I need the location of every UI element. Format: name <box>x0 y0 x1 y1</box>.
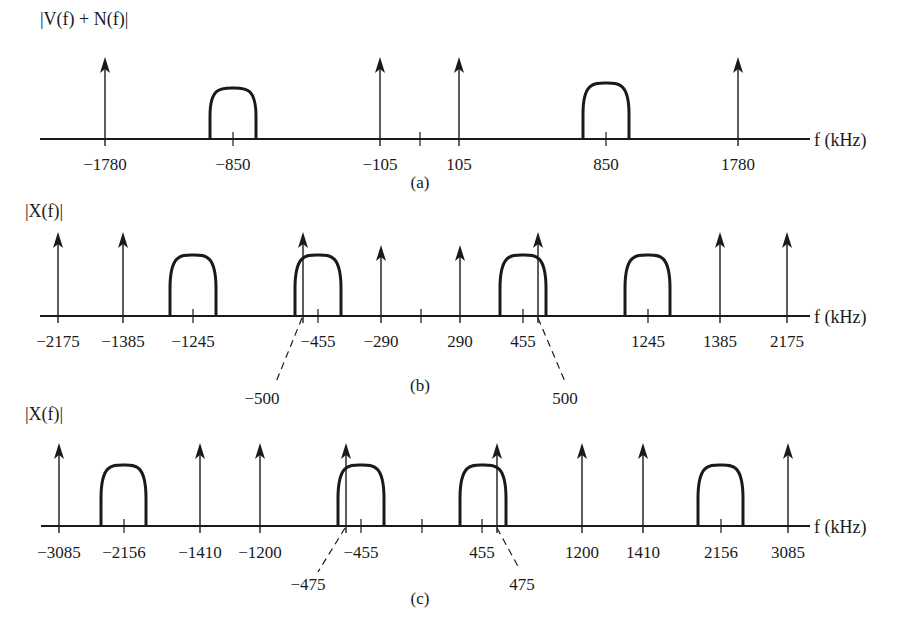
panel-caption: (c) <box>411 589 430 608</box>
spectrum-bump: 455 <box>460 465 506 562</box>
callout: 500 <box>538 318 578 408</box>
impulse-arrow <box>492 443 502 533</box>
tick-label: 455 <box>469 543 495 562</box>
tick-label: −1245 <box>171 332 215 351</box>
spectrum-bump: 850 <box>583 83 629 174</box>
tick-label: −1200 <box>238 543 282 562</box>
bump-curve <box>170 255 216 316</box>
spectrum-bump: −455 <box>295 255 341 351</box>
impulse-arrow <box>341 443 351 533</box>
impulse-arrow: 1410 <box>626 443 660 562</box>
tick-label: −455 <box>300 332 335 351</box>
impulse-arrow: −1385 <box>101 232 145 351</box>
tick-label: 1780 <box>721 155 755 174</box>
panel-a: |V(f) + N(f)|f (kHz)−1780−1051051780−850… <box>40 9 866 192</box>
spectrum-bump: −2156 <box>101 465 146 562</box>
tick-label: −1780 <box>83 155 127 174</box>
spectrum-bump: −1245 <box>170 255 216 351</box>
impulse-arrow: 1780 <box>721 57 755 174</box>
tick-label: 1385 <box>703 332 737 351</box>
impulse-arrow: −3085 <box>37 443 81 562</box>
impulse-arrow: −290 <box>363 245 398 351</box>
tick-label: −2156 <box>102 543 146 562</box>
impulse-arrow: 3085 <box>771 443 805 562</box>
bump-curve <box>460 465 506 526</box>
impulse-arrow: 1200 <box>565 443 599 562</box>
impulse-arrow <box>533 232 543 323</box>
tick-label: −2175 <box>36 332 80 351</box>
impulse-arrow: −105 <box>362 57 397 174</box>
spectrum-bump: −455 <box>338 465 384 562</box>
tick-label: −1410 <box>178 543 222 562</box>
tick-label: −3085 <box>37 543 81 562</box>
spectrum-bump: 1245 <box>625 255 670 351</box>
x-axis-label: f (kHz) <box>814 517 866 538</box>
callout: 475 <box>497 528 535 594</box>
bump-curve <box>500 255 546 316</box>
tick-label: 2156 <box>704 543 738 562</box>
x-axis-label: f (kHz) <box>814 130 866 151</box>
impulse-arrow: −2175 <box>36 232 80 351</box>
tick-label: −105 <box>362 155 397 174</box>
y-axis-label: |V(f) + N(f)| <box>40 9 128 30</box>
tick-label: −290 <box>363 332 398 351</box>
spectrum-bump: −850 <box>210 88 256 174</box>
spectrum-diagram: |V(f) + N(f)|f (kHz)−1780−1051051780−850… <box>0 0 902 624</box>
tick-label: −455 <box>343 543 378 562</box>
tick-label: 1200 <box>565 543 599 562</box>
callout-label: −475 <box>290 575 325 594</box>
panel-b: |X(f)|f (kHz)−2175−1385−29029013852175−1… <box>25 201 866 408</box>
bump-curve <box>295 255 341 316</box>
tick-label: 455 <box>510 332 536 351</box>
spectrum-bump: 455 <box>500 255 546 351</box>
tick-label: 105 <box>446 155 472 174</box>
callout-label: 500 <box>552 389 578 408</box>
panel-caption: (b) <box>410 376 430 395</box>
bump-curve <box>210 88 256 139</box>
spectrum-bump: 2156 <box>698 465 743 562</box>
tick-label: 2175 <box>770 332 804 351</box>
y-axis-label: |X(f)| <box>25 404 63 425</box>
impulse-arrow: 290 <box>447 245 473 351</box>
impulse-arrow: 2175 <box>770 232 804 351</box>
bump-curve <box>625 255 670 316</box>
tick-label: −1385 <box>101 332 145 351</box>
impulse-arrow <box>298 232 308 323</box>
bump-curve <box>698 465 743 526</box>
tick-label: 1410 <box>626 543 660 562</box>
tick-label: 850 <box>593 155 619 174</box>
tick-label: 1245 <box>631 332 665 351</box>
bump-curve <box>101 465 146 526</box>
impulse-arrow: −1410 <box>178 443 222 562</box>
x-axis-label: f (kHz) <box>814 307 866 328</box>
bump-curve <box>338 465 384 526</box>
callout: −475 <box>290 528 345 594</box>
spectrum-figure: |V(f) + N(f)|f (kHz)−1780−1051051780−850… <box>0 0 902 624</box>
panel-caption: (a) <box>411 173 430 192</box>
panel-c: |X(f)|f (kHz)−3085−1410−1200120014103085… <box>25 404 866 608</box>
dashed-leader-line <box>276 318 302 382</box>
callout-label: −500 <box>244 389 279 408</box>
tick-label: 3085 <box>771 543 805 562</box>
y-axis-label: |X(f)| <box>25 201 63 222</box>
dashed-leader-line <box>497 528 520 570</box>
impulse-arrow: 105 <box>446 57 472 174</box>
bump-curve <box>583 83 629 139</box>
impulse-arrow: −1780 <box>83 57 127 174</box>
callout: −500 <box>244 318 302 408</box>
callout-label: 475 <box>509 575 535 594</box>
tick-label: 290 <box>447 332 473 351</box>
dashed-leader-line <box>538 318 566 384</box>
impulse-arrow: 1385 <box>703 232 737 351</box>
impulse-arrow: −1200 <box>238 443 282 562</box>
tick-label: −850 <box>215 155 250 174</box>
dashed-leader-line <box>318 528 345 572</box>
